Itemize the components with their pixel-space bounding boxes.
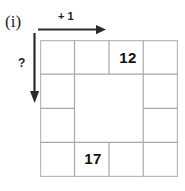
top-arrow-label: + 1 xyxy=(58,11,74,22)
arrow-right-icon xyxy=(38,24,106,36)
puzzle-grid: 12 17 xyxy=(40,40,178,177)
grid-cell-value-r1c3: 12 xyxy=(113,50,143,65)
grid-lines xyxy=(40,40,178,177)
grid-cell-value-r4c2: 17 xyxy=(78,151,108,166)
top-arrow-group: + 1 xyxy=(38,12,106,36)
left-arrow-label: ? xyxy=(18,57,25,69)
figure-label: (i) xyxy=(5,13,21,30)
figure-container: (i) + 1 ? xyxy=(0,0,185,191)
